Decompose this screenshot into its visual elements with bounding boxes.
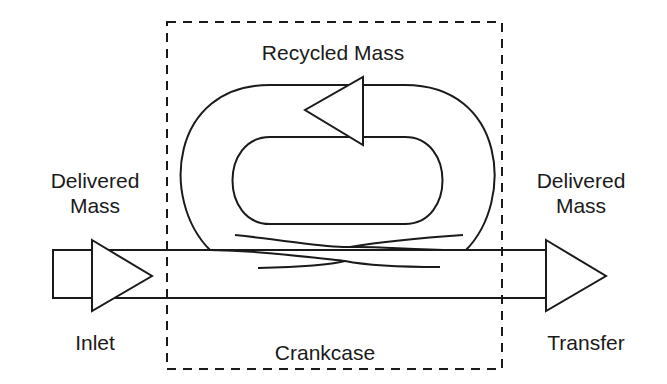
label-line: Delivered — [30, 168, 160, 193]
transfer-arrow-icon — [546, 240, 606, 311]
crankcase-label: Crankcase — [250, 340, 400, 365]
label-line: Mass — [30, 193, 160, 218]
recycle-arrow-icon — [305, 77, 363, 145]
inlet-label: Inlet — [50, 330, 140, 355]
recycled-mass-label: Recycled Mass — [218, 40, 448, 65]
crankcase-boundary — [167, 22, 502, 369]
label-line: Delivered — [516, 168, 646, 193]
label-line: Mass — [516, 193, 646, 218]
inlet-delivered-mass-label: Delivered Mass — [30, 168, 160, 218]
crossing-line-2 — [350, 235, 463, 247]
inlet-box — [53, 250, 92, 298]
recycle-loop-inner — [233, 137, 443, 224]
transfer-label: Transfer — [526, 330, 646, 355]
transfer-delivered-mass-label: Delivered Mass — [516, 168, 646, 218]
crossing-line-4 — [258, 261, 345, 268]
